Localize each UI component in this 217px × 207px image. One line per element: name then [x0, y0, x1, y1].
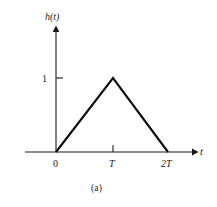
x-axis-label: t: [200, 146, 204, 157]
figure-container: h(t) t 1 0 T 2T (a): [0, 0, 217, 207]
x-tick-label-peak: T: [109, 158, 116, 169]
y-tick-label-1: 1: [42, 73, 47, 84]
y-axis-arrow-icon: [53, 26, 60, 33]
x-tick-label-end: 2T: [161, 158, 173, 169]
figure-caption: (a): [0, 183, 193, 193]
x-tick-label-origin: 0: [53, 158, 58, 169]
y-axis-label: h(t): [45, 11, 60, 23]
triangular-pulse-plot: h(t) t 1 0 T 2T: [0, 0, 217, 207]
triangular-pulse-curve: [56, 78, 168, 152]
x-axis-arrow-icon: [192, 149, 199, 156]
